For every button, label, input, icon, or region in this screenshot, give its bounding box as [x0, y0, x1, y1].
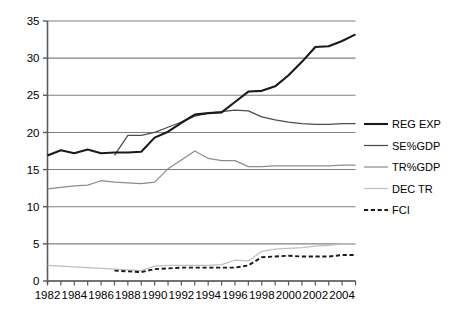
x-tick-labels: 1982198419861988199019921994199619982000… — [35, 289, 356, 301]
y-tick-label: 35 — [27, 15, 40, 27]
x-tick-label: 1988 — [115, 289, 141, 301]
x-tick-label: 1990 — [142, 289, 168, 301]
x-tick-label: 2004 — [329, 289, 355, 301]
y-tick-label: 15 — [27, 164, 40, 176]
legend-label: DEC TR — [392, 183, 433, 195]
x-tick-label: 1984 — [61, 289, 87, 301]
x-tick-label: 1994 — [195, 289, 221, 301]
y-tick-label: 5 — [33, 238, 39, 250]
x-tick-label: 1998 — [249, 289, 275, 301]
x-tick-label: 2002 — [303, 289, 329, 301]
x-tick-label: 1992 — [169, 289, 195, 301]
y-tick-label: 20 — [27, 127, 40, 139]
legend-label: REG EXP — [392, 118, 441, 130]
legend-label: FCI — [392, 204, 410, 216]
line-chart: 05101520253035 1982198419861988199019921… — [0, 0, 459, 312]
y-tick-label: 25 — [27, 89, 40, 101]
x-tick-label: 1982 — [35, 289, 61, 301]
chart-background — [0, 0, 459, 312]
x-tick-label: 1986 — [88, 289, 114, 301]
y-tick-label: 30 — [27, 52, 40, 64]
y-tick-label: 0 — [33, 275, 39, 287]
legend-label: SE%GDP — [392, 140, 440, 152]
x-tick-label: 1996 — [222, 289, 248, 301]
x-tick-label: 2000 — [276, 289, 302, 301]
legend-label: TR%GDP — [392, 161, 440, 173]
y-tick-label: 10 — [27, 201, 40, 213]
